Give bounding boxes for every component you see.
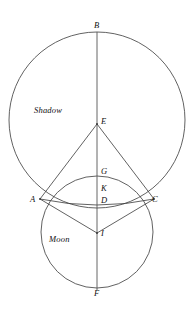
point-label-i: I (101, 229, 104, 238)
vertex-dot-a (39, 198, 41, 200)
vertex-dot-e (96, 123, 98, 125)
point-label-c: C (152, 195, 158, 204)
region-label-shadow: Shadow (34, 106, 62, 115)
geometry-figure: Shadow Moon B E G K D A C I F (0, 0, 195, 313)
point-label-g: G (101, 167, 107, 176)
segment-i-a (40, 199, 97, 233)
point-label-f: F (94, 289, 99, 298)
vertex-dot-i (96, 232, 98, 234)
point-label-a: A (30, 195, 35, 204)
point-label-k: K (101, 184, 107, 193)
point-label-b: B (94, 21, 99, 30)
segment-e-a (40, 124, 97, 199)
point-label-d: D (101, 196, 107, 205)
figure-canvas (0, 0, 195, 313)
region-label-moon: Moon (49, 235, 70, 244)
point-label-e: E (101, 117, 106, 126)
